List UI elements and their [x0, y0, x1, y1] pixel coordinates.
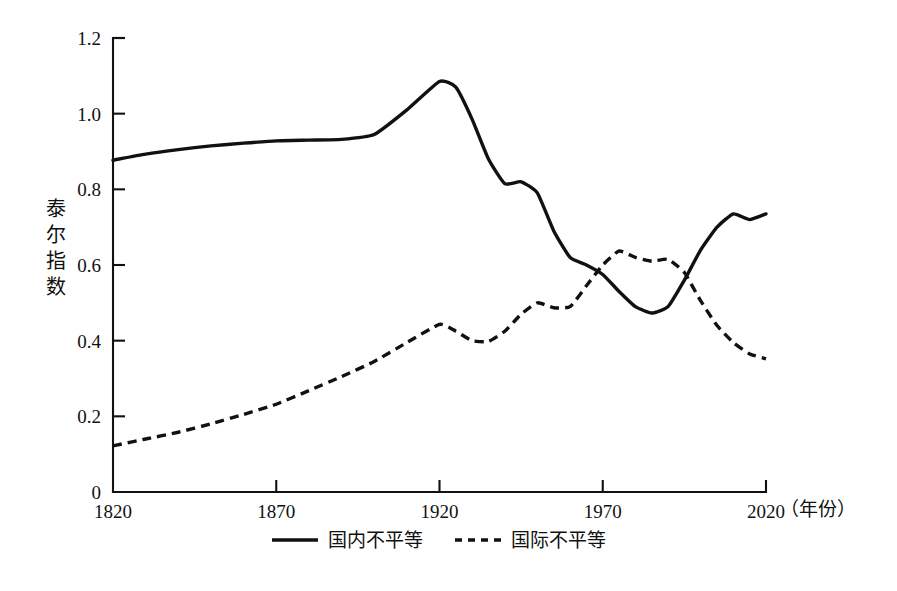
- legend-item-domestic: 国内不平等: [272, 529, 423, 551]
- chart-container: 00.20.40.60.81.01.2 18201870192019702020…: [0, 0, 897, 591]
- axis-group: [113, 38, 766, 492]
- series-line-international-inequality: [113, 251, 766, 446]
- theil-index-line-chart: 00.20.40.60.81.01.2 18201870192019702020…: [0, 0, 897, 591]
- x-tick-label: 1870: [257, 501, 295, 522]
- x-tick-label: 1920: [421, 501, 459, 522]
- y-axis-title-char: 尔: [46, 223, 66, 247]
- y-axis-title-char: 数: [46, 275, 66, 299]
- x-tick-label: 1970: [584, 501, 622, 522]
- y-axis-title: 泰尔指数: [46, 197, 66, 299]
- y-tick-label: 0.2: [77, 406, 101, 427]
- series-group: [113, 81, 766, 446]
- y-tick-labels: 00.20.40.60.81.01.2: [77, 28, 101, 503]
- y-axis-title-char: 泰: [46, 197, 66, 221]
- legend-item-international: 国际不平等: [455, 529, 606, 551]
- x-axis-unit-label: （年份）: [780, 498, 856, 520]
- legend-label-international: 国际不平等: [511, 529, 606, 551]
- y-tick-label: 0.6: [77, 255, 101, 276]
- x-tick-marks: [276, 480, 603, 492]
- x-tick-label: 1820: [94, 501, 132, 522]
- y-tick-label: 1.2: [77, 28, 101, 49]
- y-tick-label: 0.4: [77, 331, 101, 352]
- y-tick-label: 0: [92, 482, 102, 503]
- chart-legend: 国内不平等 国际不平等: [272, 529, 606, 551]
- y-tick-label: 0.8: [77, 179, 101, 200]
- y-axis-title-char: 指: [46, 249, 66, 273]
- legend-label-domestic: 国内不平等: [328, 529, 423, 551]
- x-tick-labels: 18201870192019702020: [94, 501, 785, 522]
- series-line-domestic-inequality: [113, 81, 766, 313]
- y-tick-marks: [113, 38, 125, 416]
- y-tick-label: 1.0: [77, 104, 101, 125]
